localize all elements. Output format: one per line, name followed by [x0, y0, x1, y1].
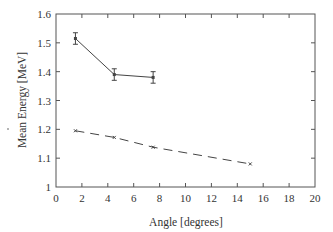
x-axis-label: Angle [degrees] — [149, 216, 223, 229]
x-axis-ticks: 02468101214161820 — [53, 14, 321, 204]
x-tick-label: 0 — [53, 192, 59, 204]
series-layer — [73, 33, 252, 166]
chart: 02468101214161820 11.11.21.31.41.51.6 An… — [0, 0, 333, 232]
data-point — [152, 76, 155, 79]
x-tick-label: 12 — [206, 192, 217, 204]
y-tick-label: 1.1 — [37, 152, 51, 164]
y-tick-label: 1.2 — [37, 123, 51, 135]
x-tick-label: 10 — [180, 192, 192, 204]
x-tick-label: 20 — [310, 192, 322, 204]
series-solid-with-errorbars — [73, 33, 156, 83]
data-point — [74, 37, 77, 40]
y-tick-label: 1.6 — [37, 8, 51, 20]
x-tick-label: 2 — [79, 192, 85, 204]
plot-border — [56, 14, 315, 187]
x-tick-label: 6 — [131, 192, 137, 204]
x-tick-label: 16 — [258, 192, 270, 204]
y-tick-label: 1 — [46, 181, 52, 193]
y-tick-label: 1.4 — [37, 66, 51, 78]
x-tick-label: 8 — [157, 192, 163, 204]
data-point — [113, 73, 116, 76]
y-axis-ticks: 11.11.21.31.41.51.6 — [37, 8, 315, 193]
series-dashed — [74, 129, 252, 165]
data-point — [249, 162, 252, 165]
y-axis-label: Mean Energy [MeV] — [16, 52, 29, 148]
plot-frame — [56, 14, 315, 187]
stray-dot — [7, 128, 9, 130]
x-tick-label: 14 — [232, 192, 244, 204]
x-tick-label: 18 — [284, 192, 296, 204]
x-tick-label: 4 — [105, 192, 111, 204]
y-tick-label: 1.3 — [37, 95, 51, 107]
y-tick-label: 1.5 — [37, 37, 51, 49]
